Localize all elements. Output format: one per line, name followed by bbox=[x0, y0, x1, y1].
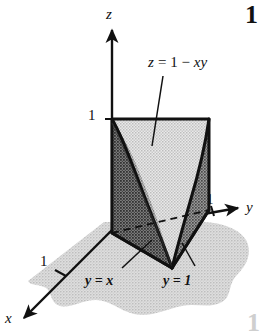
x-axis-tick-label: 1 bbox=[40, 254, 48, 269]
surface-equation-minus: − bbox=[182, 54, 190, 70]
y-axis-tick bbox=[211, 206, 214, 216]
surface-equation-label: z = 1 − xy bbox=[148, 55, 207, 70]
curve-label-y-equals-1: y = 1 bbox=[163, 274, 191, 288]
surface-equation-xy: xy bbox=[194, 54, 207, 70]
y-axis-label: y bbox=[246, 200, 253, 215]
three-d-region-svg bbox=[0, 0, 270, 336]
y-axis-tick-label: 1 bbox=[206, 192, 214, 207]
figure-number-bottom-right: 1 bbox=[247, 310, 260, 336]
z-axis-tick-label: 1 bbox=[88, 108, 96, 123]
z-axis-label: z bbox=[106, 7, 112, 22]
curve-label-y-equals-x: y = x bbox=[85, 274, 113, 288]
x-axis-label: x bbox=[5, 311, 12, 326]
figure-container: z y x 1 1 1 z = 1 − xy y = x y = 1 1 1 bbox=[0, 0, 270, 336]
figure-number: 1 bbox=[245, 2, 258, 28]
surface-equation-one: 1 bbox=[170, 54, 178, 70]
surface-equation-equals: = bbox=[158, 54, 166, 70]
